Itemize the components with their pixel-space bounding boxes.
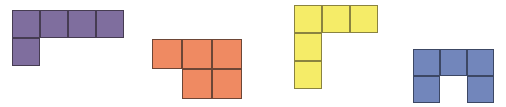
polyomino-cell: [467, 49, 494, 76]
polyomino-cell: [294, 5, 322, 33]
polyomino-cell: [182, 39, 212, 69]
polyomino-cell: [40, 10, 68, 38]
polyomino-cell: [294, 61, 322, 89]
polyomino-cell: [413, 76, 440, 103]
polyomino-cell: [12, 38, 40, 66]
polyomino-cell: [322, 5, 350, 33]
polyomino-cell: [294, 33, 322, 61]
polyomino-cell: [212, 39, 242, 69]
polyomino-cell: [152, 39, 182, 69]
polyomino-cell: [467, 76, 494, 103]
polyomino-cell: [182, 69, 212, 99]
polyomino-cell: [12, 10, 40, 38]
polyomino-cell: [96, 10, 124, 38]
polyomino-cell: [440, 49, 467, 76]
polyomino-cell: [350, 5, 378, 33]
polyomino-cell: [413, 49, 440, 76]
polyomino-cell: [68, 10, 96, 38]
polyomino-figure-canvas: [0, 0, 506, 107]
polyomino-cell: [212, 69, 242, 99]
